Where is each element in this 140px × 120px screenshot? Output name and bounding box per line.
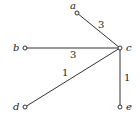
node-c <box>118 46 122 50</box>
weighted-graph: 3 3 1 1 a b c d e <box>0 0 140 120</box>
edge-weight-d-c: 1 <box>62 67 68 78</box>
node-b <box>23 46 27 50</box>
node-e <box>118 105 122 109</box>
node-label-b: b <box>13 42 19 53</box>
node-a <box>75 11 79 15</box>
node-label-d: d <box>13 101 19 112</box>
node-label-c: c <box>126 42 132 53</box>
node-label-e: e <box>126 101 132 112</box>
edge-weight-a-c: 3 <box>98 19 104 30</box>
node-label-a: a <box>70 0 76 11</box>
node-d <box>23 105 27 109</box>
edge-weight-b-c: 3 <box>70 49 76 60</box>
edge-weight-c-e: 1 <box>124 72 130 83</box>
